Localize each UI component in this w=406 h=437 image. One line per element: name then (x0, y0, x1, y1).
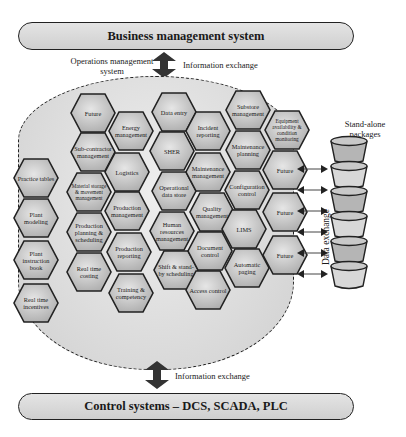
module-hex: Equipment availability & condition monit… (264, 110, 310, 150)
module-hex: Logistics (104, 152, 150, 192)
module-hex: LIMS (221, 209, 267, 249)
module-label: Real time incentives (13, 283, 59, 323)
stand-alone-package (329, 260, 369, 294)
module-hex: Real time incentives (13, 283, 59, 323)
control-systems: Control systems – DCS, SCADA, PLC (18, 393, 354, 420)
module-label: Plant instruction book (13, 240, 59, 280)
module-hex: Production reporting (106, 232, 152, 272)
module-hex: Practice tables (13, 158, 59, 198)
bidirectional-arrow-icon (297, 160, 328, 170)
info-exchange-top-label: Information exchange (183, 60, 273, 70)
double-arrow-bottom-icon (145, 361, 169, 389)
module-hex: Plant modeling (13, 198, 59, 238)
module-label: Plant modeling (13, 198, 59, 238)
module-label: Production management (104, 191, 150, 231)
module-label: Logistics (104, 152, 150, 192)
module-hex: Energy management (108, 111, 154, 151)
business-management-system: Business management system (18, 22, 354, 50)
module-label: Energy management (108, 111, 154, 151)
double-arrow-top-icon (152, 52, 176, 78)
bidirectional-arrow-icon (297, 181, 328, 191)
module-hex: Production management (104, 191, 150, 231)
module-label: Production reporting (106, 232, 152, 272)
module-label: LIMS (221, 209, 267, 249)
operations-system-label: Operations management system (62, 56, 162, 76)
module-label: Training & competency (108, 273, 154, 313)
module-hex: Plant instruction book (13, 240, 59, 280)
module-hex: Training & competency (108, 273, 154, 313)
info-exchange-bottom-label: Information exchange (175, 371, 265, 381)
module-label: Practice tables (13, 158, 59, 198)
module-label: Equipment availability & condition monit… (264, 110, 310, 150)
business-management-label: Business management system (108, 29, 265, 44)
control-systems-label: Control systems – DCS, SCADA, PLC (84, 399, 288, 414)
